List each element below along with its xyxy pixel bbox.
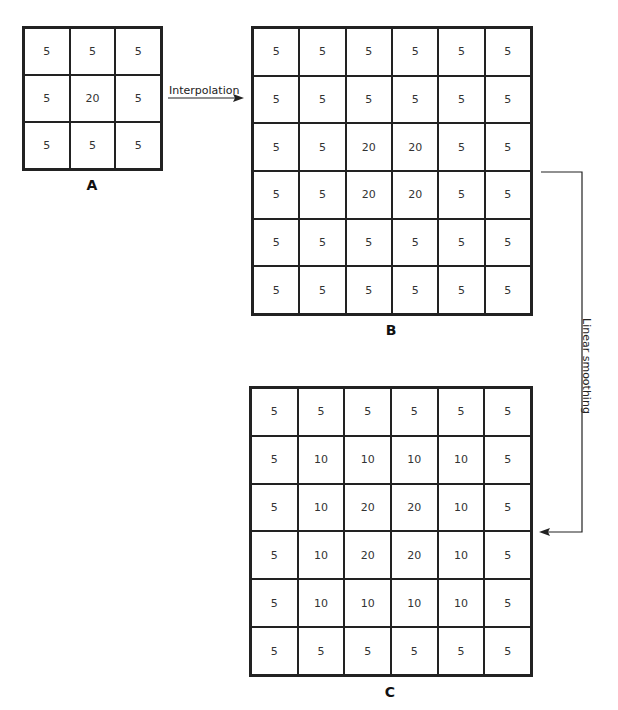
smoothing-arrow-icon — [539, 172, 582, 536]
arrow-connectors — [0, 0, 618, 710]
interpolation-arrow-icon — [168, 94, 244, 102]
smoothing-label: Linear smoothing — [580, 318, 593, 414]
